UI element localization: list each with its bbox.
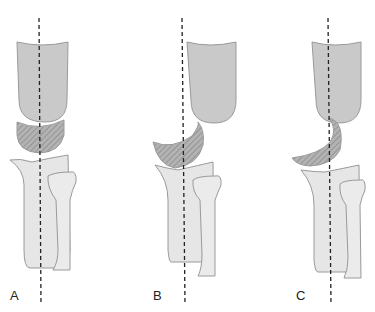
hatched-bone-c	[292, 118, 341, 166]
panel-label-b: B	[153, 288, 162, 303]
panel-c	[292, 18, 365, 304]
panel-label-a: A	[10, 288, 19, 303]
panel-label-c: C	[296, 288, 305, 303]
diagram-canvas	[0, 0, 375, 312]
hatched-bone-a	[17, 120, 64, 153]
upper-bone-c	[312, 42, 361, 123]
panel-b	[153, 18, 236, 304]
upper-bone-b	[187, 42, 236, 123]
panel-a	[10, 18, 76, 304]
hatched-bone-b	[153, 122, 203, 168]
upper-bone-a	[17, 42, 68, 122]
